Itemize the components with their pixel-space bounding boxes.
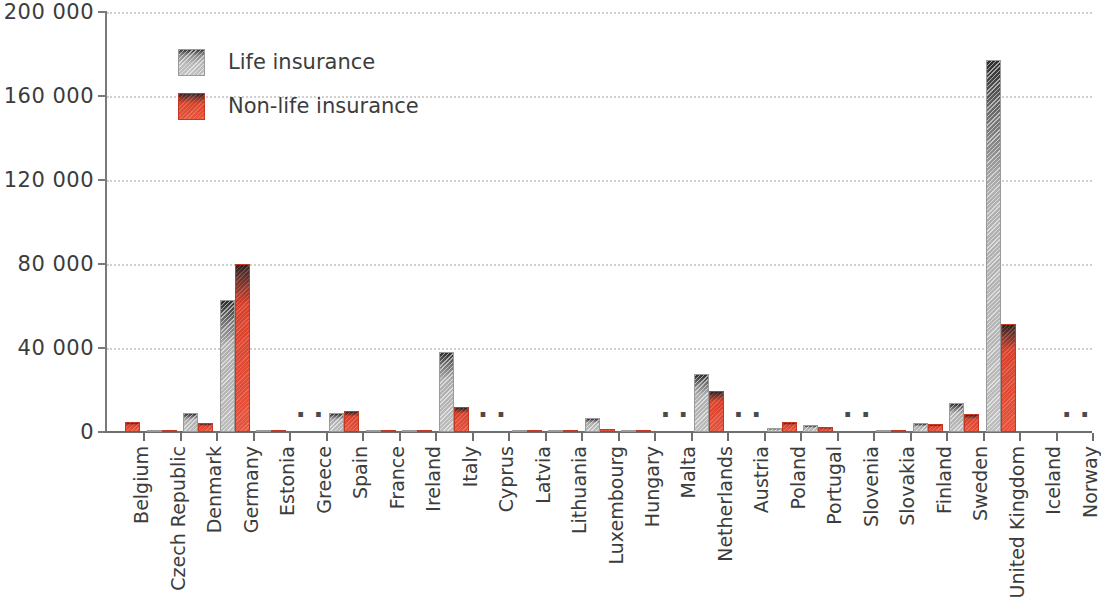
bar-group[interactable] [1022, 12, 1052, 432]
bar-life-insurance[interactable] [986, 60, 1001, 432]
bar-life-insurance[interactable] [512, 430, 527, 432]
bar-non-life-insurance[interactable] [928, 424, 943, 432]
x-tick-mark [873, 433, 875, 441]
bar-non-life-insurance[interactable] [454, 407, 469, 432]
x-tick-mark [1019, 433, 1021, 441]
x-tick-mark [289, 433, 291, 441]
bar-non-life-insurance[interactable] [782, 422, 797, 433]
bar-non-life-insurance[interactable] [198, 423, 213, 432]
bar-non-life-insurance[interactable] [527, 430, 542, 432]
bar-non-life-insurance[interactable] [235, 264, 250, 432]
bar-life-insurance[interactable] [220, 300, 235, 432]
x-tick-mark [618, 433, 620, 441]
bar-non-life-insurance[interactable] [891, 430, 906, 432]
x-tick-mark [727, 433, 729, 441]
bar-group[interactable] [913, 12, 943, 432]
bar-group[interactable] [694, 12, 724, 432]
bar-non-life-insurance[interactable] [1001, 324, 1016, 432]
x-tick-mark [180, 433, 182, 441]
missing-data-marker: ·· [296, 402, 332, 428]
bar-group[interactable] [949, 12, 979, 432]
bar-life-insurance[interactable] [621, 430, 636, 432]
x-tick-mark [654, 433, 656, 441]
y-tick-label: 160 000 [0, 86, 94, 107]
x-axis-label: Belgium [132, 446, 151, 524]
bar-group[interactable] [548, 12, 578, 432]
bar-non-life-insurance[interactable] [709, 391, 724, 432]
bar-group[interactable] [876, 12, 906, 432]
x-tick-mark [253, 433, 255, 441]
bar-group[interactable]: ·· [840, 12, 870, 432]
bar-group[interactable]: ·· [1059, 12, 1089, 432]
x-axis-label: Germany [242, 446, 261, 533]
bar-life-insurance[interactable] [366, 430, 381, 432]
bar-group[interactable] [110, 12, 140, 432]
bar-life-insurance[interactable] [876, 430, 891, 432]
bar-group[interactable] [147, 12, 177, 432]
bar-non-life-insurance[interactable] [563, 430, 578, 432]
legend-swatch-life-icon [178, 49, 205, 76]
x-axis-label: Czech Republic [169, 446, 188, 591]
x-axis-label: Slovenia [862, 446, 881, 527]
bar-group[interactable] [585, 12, 615, 432]
legend-item-nonlife[interactable]: Non-life insurance [178, 84, 419, 128]
x-axis-label: Latvia [534, 446, 553, 504]
bar-life-insurance[interactable] [949, 403, 964, 432]
x-axis-label: Ireland [424, 446, 443, 512]
missing-data-marker: ·· [733, 402, 769, 428]
x-tick-mark [946, 433, 948, 441]
bar-group[interactable] [803, 12, 833, 432]
bar-life-insurance[interactable] [767, 428, 782, 432]
bar-life-insurance[interactable] [402, 430, 417, 432]
bar-non-life-insurance[interactable] [125, 422, 140, 433]
x-tick-mark [691, 433, 693, 441]
y-tick-label: 80 000 [0, 254, 94, 275]
bar-life-insurance[interactable] [548, 430, 563, 432]
bar-non-life-insurance[interactable] [636, 430, 651, 432]
bar-non-life-insurance[interactable] [818, 427, 833, 432]
x-tick-mark [472, 433, 474, 441]
x-axis-label: Hungary [643, 446, 662, 527]
bar-non-life-insurance[interactable] [162, 430, 177, 432]
bar-non-life-insurance[interactable] [344, 411, 359, 432]
bar-group[interactable]: ·· [475, 12, 505, 432]
x-tick-mark [800, 433, 802, 441]
x-tick-mark [581, 433, 583, 441]
missing-data-marker: ·· [660, 402, 696, 428]
bar-group[interactable] [767, 12, 797, 432]
bar-non-life-insurance[interactable] [600, 429, 615, 432]
bar-non-life-insurance[interactable] [381, 430, 396, 432]
bar-life-insurance[interactable] [256, 430, 271, 432]
bar-life-insurance[interactable] [803, 425, 818, 432]
y-tick-label: 0 [0, 422, 94, 443]
bar-group[interactable]: ·· [657, 12, 687, 432]
bar-life-insurance[interactable] [439, 352, 454, 432]
bar-non-life-insurance[interactable] [964, 414, 979, 432]
bar-life-insurance[interactable] [183, 413, 198, 432]
chart-legend: Life insurance Non-life insurance [178, 40, 419, 128]
x-tick-mark [837, 433, 839, 441]
x-axis-label: Sweden [971, 446, 990, 521]
bar-life-insurance[interactable] [147, 430, 162, 432]
missing-data-marker: ·· [1062, 402, 1098, 428]
bar-group[interactable]: ·· [730, 12, 760, 432]
bar-life-insurance[interactable] [585, 418, 600, 432]
bar-group[interactable] [439, 12, 469, 432]
x-tick-mark [983, 433, 985, 441]
bar-non-life-insurance[interactable] [417, 430, 432, 432]
missing-data-marker: ·· [478, 402, 514, 428]
bar-life-insurance[interactable] [913, 423, 928, 432]
y-tick-label: 200 000 [0, 2, 94, 23]
bar-non-life-insurance[interactable] [271, 430, 286, 432]
x-tick-mark [508, 433, 510, 441]
x-tick-mark [910, 433, 912, 441]
x-axis-label: Cyprus [497, 446, 516, 512]
bar-life-insurance[interactable] [694, 374, 709, 432]
bar-group[interactable] [621, 12, 651, 432]
x-tick-mark [1056, 433, 1058, 441]
bar-life-insurance[interactable] [329, 413, 344, 432]
bar-group[interactable] [512, 12, 542, 432]
bar-group[interactable] [986, 12, 1016, 432]
legend-item-life[interactable]: Life insurance [178, 40, 419, 84]
x-tick-mark [326, 433, 328, 441]
